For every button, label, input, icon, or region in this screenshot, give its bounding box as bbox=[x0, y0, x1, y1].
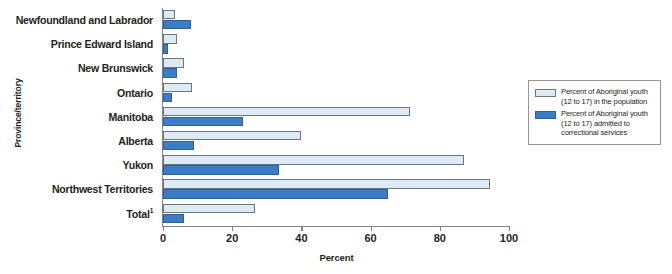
bar bbox=[163, 20, 191, 29]
bar bbox=[163, 10, 175, 19]
bar bbox=[163, 204, 255, 213]
x-axis-title: Percent bbox=[163, 252, 510, 263]
x-tick bbox=[232, 226, 233, 231]
bar-group bbox=[163, 56, 509, 80]
bar-group bbox=[163, 202, 509, 226]
bar-group bbox=[163, 153, 509, 177]
bar bbox=[163, 131, 301, 140]
bar bbox=[163, 189, 388, 198]
category-label: Prince Edward Island bbox=[51, 32, 153, 56]
category-label: Total1 bbox=[126, 202, 153, 226]
category-label: Yukon bbox=[122, 153, 153, 177]
bar bbox=[163, 93, 172, 102]
x-tick-label: 0 bbox=[143, 232, 183, 244]
bar bbox=[163, 165, 279, 174]
bar-group bbox=[163, 105, 509, 129]
bar bbox=[163, 141, 194, 150]
bar bbox=[163, 214, 184, 223]
bar-group bbox=[163, 32, 509, 56]
bar bbox=[163, 34, 177, 43]
bar bbox=[163, 44, 168, 53]
bar bbox=[163, 58, 184, 67]
bar bbox=[163, 155, 464, 164]
x-tick bbox=[301, 226, 302, 231]
legend-item: Percent of Aboriginal youth (12 to 17) i… bbox=[535, 87, 655, 106]
category-label: Ontario bbox=[117, 81, 153, 105]
category-label: Manitoba bbox=[109, 105, 154, 129]
legend-label: Percent of Aboriginal youth (12 to 17) a… bbox=[561, 109, 655, 138]
x-tick bbox=[163, 226, 164, 231]
bar bbox=[163, 179, 490, 188]
bar bbox=[163, 83, 192, 92]
bar-group bbox=[163, 8, 509, 32]
x-tick-label: 100 bbox=[489, 232, 529, 244]
x-tick-label: 40 bbox=[281, 232, 321, 244]
x-tick bbox=[509, 226, 510, 231]
x-tick-label: 20 bbox=[212, 232, 252, 244]
bar bbox=[163, 117, 243, 126]
legend-label: Percent of Aboriginal youth (12 to 17) i… bbox=[561, 87, 655, 106]
x-tick-label: 80 bbox=[420, 232, 460, 244]
chart-legend: Percent of Aboriginal youth (12 to 17) i… bbox=[528, 80, 661, 145]
bar-chart: Province/territory Newfoundland and Labr… bbox=[0, 0, 672, 274]
bar-group bbox=[163, 129, 509, 153]
category-axis-labels: Newfoundland and LabradorPrince Edward I… bbox=[0, 8, 156, 226]
category-label: Newfoundland and Labrador bbox=[16, 8, 153, 32]
bars-container bbox=[163, 8, 509, 226]
legend-swatch bbox=[535, 111, 556, 119]
bar-group bbox=[163, 177, 509, 201]
bar bbox=[163, 68, 177, 77]
x-axis-line bbox=[163, 226, 510, 227]
bar bbox=[163, 107, 410, 116]
category-label: New Brunswick bbox=[78, 56, 153, 80]
legend-swatch bbox=[535, 89, 556, 97]
plot-area bbox=[163, 8, 509, 226]
bar-group bbox=[163, 81, 509, 105]
y-axis-line bbox=[162, 8, 163, 227]
category-label: Alberta bbox=[118, 129, 153, 153]
x-tick-label: 60 bbox=[351, 232, 391, 244]
category-label: Northwest Territories bbox=[52, 177, 153, 201]
x-tick bbox=[371, 226, 372, 231]
x-tick bbox=[440, 226, 441, 231]
legend-item: Percent of Aboriginal youth (12 to 17) a… bbox=[535, 109, 655, 138]
footnote-marker: 1 bbox=[150, 207, 153, 214]
